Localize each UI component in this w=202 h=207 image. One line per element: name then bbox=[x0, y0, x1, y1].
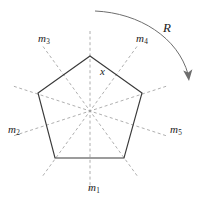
mirror-label-m3-subscript: 3 bbox=[46, 38, 50, 46]
mirror-label-m1-base: m bbox=[88, 181, 96, 193]
mirror-label-m4-subscript: 4 bbox=[144, 38, 148, 46]
center-label-x: x bbox=[100, 66, 105, 77]
rotation-label-R: R bbox=[163, 21, 171, 34]
mirror-lines-group bbox=[14, 31, 166, 191]
mirror-label-m4: m4 bbox=[136, 33, 148, 46]
mirror-label-m2-base: m bbox=[8, 123, 16, 135]
pentagon-symmetry-figure: x R m1 m2 m3 m4 m5 bbox=[0, 0, 202, 207]
mirror-label-m5: m5 bbox=[170, 124, 182, 137]
mirror-label-m5-base: m bbox=[170, 123, 178, 135]
mirror-label-m1-subscript: 1 bbox=[96, 187, 100, 195]
mirror-label-m1: m1 bbox=[88, 182, 100, 195]
mirror-label-m3-base: m bbox=[38, 32, 46, 44]
figure-canvas bbox=[0, 0, 202, 207]
mirror-label-m5-subscript: 5 bbox=[178, 129, 182, 137]
mirror-label-m2: m2 bbox=[8, 124, 20, 137]
rotation-arrowhead-icon bbox=[183, 69, 192, 81]
mirror-label-m3: m3 bbox=[38, 33, 50, 46]
mirror-label-m2-subscript: 2 bbox=[16, 129, 20, 137]
mirror-label-m4-base: m bbox=[136, 32, 144, 44]
